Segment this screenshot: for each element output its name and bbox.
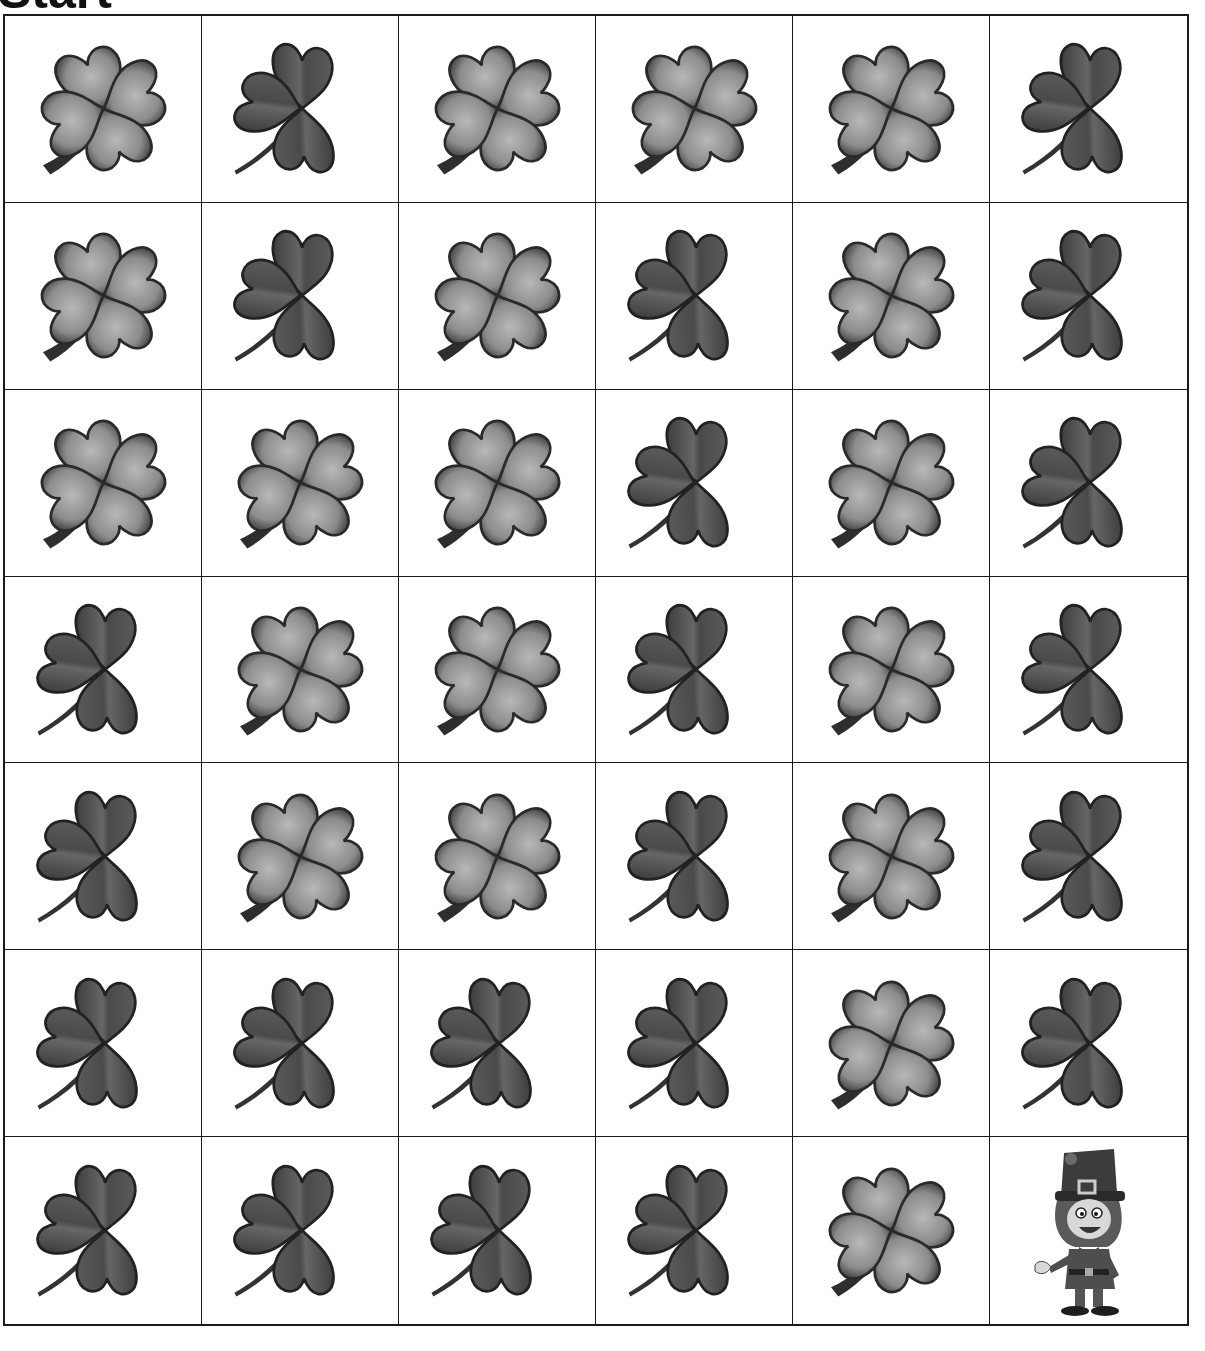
four-leaf-clover-icon <box>218 400 383 565</box>
four-leaf-clover-icon <box>21 26 186 191</box>
four-leaf-clover-icon <box>415 587 580 752</box>
three-leaf-clover-icon <box>1006 213 1171 378</box>
four-leaf-clover-icon <box>415 213 580 378</box>
maze-cell-r1-c1[interactable] <box>5 16 202 203</box>
four-leaf-clover-icon <box>415 774 580 939</box>
maze-cell-r4-c5[interactable] <box>793 577 990 764</box>
maze-cell-r7-c5[interactable] <box>793 1137 990 1324</box>
four-leaf-clover-icon <box>415 400 580 565</box>
three-leaf-clover-icon <box>1006 961 1171 1126</box>
maze-cell-r5-c6[interactable] <box>990 763 1187 950</box>
maze-cell-r6-c3[interactable] <box>399 950 596 1137</box>
four-leaf-clover-icon <box>218 587 383 752</box>
maze-cell-r5-c4[interactable] <box>596 763 793 950</box>
three-leaf-clover-icon <box>612 400 777 565</box>
three-leaf-clover-icon <box>21 587 186 752</box>
maze-cell-r7-c1[interactable] <box>5 1137 202 1324</box>
three-leaf-clover-icon <box>21 774 186 939</box>
maze-cell-r7-c4[interactable] <box>596 1137 793 1324</box>
three-leaf-clover-icon <box>612 213 777 378</box>
maze-cell-r4-c6[interactable] <box>990 577 1187 764</box>
three-leaf-clover-icon <box>612 587 777 752</box>
maze-cell-r6-c4[interactable] <box>596 950 793 1137</box>
maze-cell-r7-c2[interactable] <box>202 1137 399 1324</box>
three-leaf-clover-icon <box>218 213 383 378</box>
maze-cell-r3-c3[interactable] <box>399 390 596 577</box>
maze-cell-r1-c5[interactable] <box>793 16 990 203</box>
maze-cell-r2-c3[interactable] <box>399 203 596 390</box>
three-leaf-clover-icon <box>218 961 383 1126</box>
four-leaf-clover-icon <box>809 587 974 752</box>
maze-cell-r4-c1[interactable] <box>5 577 202 764</box>
maze-cell-r4-c3[interactable] <box>399 577 596 764</box>
maze-cell-r3-c6[interactable] <box>990 390 1187 577</box>
maze-cell-r7-c3[interactable] <box>399 1137 596 1324</box>
maze-cell-r5-c2[interactable] <box>202 763 399 950</box>
four-leaf-clover-icon <box>21 400 186 565</box>
maze-cell-r1-c2[interactable] <box>202 16 399 203</box>
three-leaf-clover-icon <box>1006 400 1171 565</box>
maze-cell-r7-c6[interactable] <box>990 1137 1187 1324</box>
maze-cell-r4-c4[interactable] <box>596 577 793 764</box>
four-leaf-clover-icon <box>809 213 974 378</box>
three-leaf-clover-icon <box>218 26 383 191</box>
maze-cell-r1-c6[interactable] <box>990 16 1187 203</box>
maze-cell-r1-c4[interactable] <box>596 16 793 203</box>
maze-cell-r3-c1[interactable] <box>5 390 202 577</box>
maze-cell-r2-c6[interactable] <box>990 203 1187 390</box>
four-leaf-clover-icon <box>809 1148 974 1313</box>
maze-cell-r6-c6[interactable] <box>990 950 1187 1137</box>
three-leaf-clover-icon <box>612 1148 777 1313</box>
maze-cell-r5-c1[interactable] <box>5 763 202 950</box>
three-leaf-clover-icon <box>21 961 186 1126</box>
maze-cell-r2-c5[interactable] <box>793 203 990 390</box>
four-leaf-clover-icon <box>21 213 186 378</box>
maze-cell-r4-c2[interactable] <box>202 577 399 764</box>
maze-cell-r2-c1[interactable] <box>5 203 202 390</box>
maze-cell-r1-c3[interactable] <box>399 16 596 203</box>
leprechaun-icon <box>1029 1143 1149 1318</box>
maze-cell-r5-c5[interactable] <box>793 763 990 950</box>
three-leaf-clover-icon <box>415 1148 580 1313</box>
maze-cell-r3-c4[interactable] <box>596 390 793 577</box>
four-leaf-clover-icon <box>809 400 974 565</box>
maze-cell-r6-c5[interactable] <box>793 950 990 1137</box>
four-leaf-clover-icon <box>612 26 777 191</box>
maze-cell-r5-c3[interactable] <box>399 763 596 950</box>
three-leaf-clover-icon <box>1006 774 1171 939</box>
clover-maze-grid <box>3 14 1189 1326</box>
maze-cell-r2-c4[interactable] <box>596 203 793 390</box>
maze-cell-r2-c2[interactable] <box>202 203 399 390</box>
three-leaf-clover-icon <box>415 961 580 1126</box>
four-leaf-clover-icon <box>809 26 974 191</box>
four-leaf-clover-icon <box>218 774 383 939</box>
three-leaf-clover-icon <box>612 961 777 1126</box>
four-leaf-clover-icon <box>809 961 974 1126</box>
three-leaf-clover-icon <box>1006 587 1171 752</box>
maze-cell-r3-c2[interactable] <box>202 390 399 577</box>
three-leaf-clover-icon <box>1006 26 1171 191</box>
three-leaf-clover-icon <box>21 1148 186 1313</box>
three-leaf-clover-icon <box>218 1148 383 1313</box>
four-leaf-clover-icon <box>415 26 580 191</box>
maze-cell-r6-c2[interactable] <box>202 950 399 1137</box>
three-leaf-clover-icon <box>612 774 777 939</box>
four-leaf-clover-icon <box>809 774 974 939</box>
maze-cell-r6-c1[interactable] <box>5 950 202 1137</box>
maze-cell-r3-c5[interactable] <box>793 390 990 577</box>
